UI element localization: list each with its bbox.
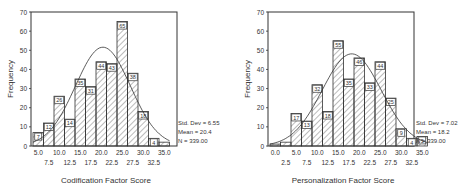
y-tick-label: 10	[257, 123, 265, 130]
x-tick-label: 27.5	[384, 159, 397, 166]
y-tick-label: 50	[20, 47, 28, 54]
x-axis-label: Codification Factor Score	[61, 176, 151, 185]
bar-count-label: 65	[119, 23, 125, 29]
x-tick-label: 25.0	[116, 149, 129, 156]
bar-count-label: 14	[67, 120, 73, 126]
histogram-bar: 33	[365, 83, 376, 146]
x-axis-label: Personalization Factor Score	[292, 176, 395, 185]
bar-count-label: 17	[293, 115, 299, 121]
y-axis-label: Frequency	[243, 60, 252, 98]
bar-count-label: 46	[356, 59, 362, 65]
y-tick-label: 60	[20, 28, 28, 35]
histogram-bar: 26	[54, 96, 65, 146]
y-tick-label: 20	[20, 104, 28, 111]
y-tick-label: 40	[20, 66, 28, 73]
bar-count-label: 9	[400, 130, 403, 136]
histogram-bar: 55	[333, 41, 344, 146]
personalization-histogram: 010203040506070Frequency1713321855354633…	[230, 0, 459, 194]
x-tick-label: 30.0	[395, 149, 408, 156]
histogram-bar: 9	[396, 129, 407, 146]
histogram-bar: 44	[375, 62, 386, 146]
y-tick-label: 70	[20, 9, 28, 16]
x-tick-label: 17.5	[84, 159, 97, 166]
x-tick-label: 32.5	[147, 159, 160, 166]
stats-text: Std. Dev = 6.55	[178, 120, 220, 126]
y-axis-label: Frequency	[6, 60, 15, 98]
histogram-bar: 18	[323, 112, 334, 146]
histogram-bar: 18	[138, 112, 149, 146]
y-tick-label: 30	[257, 85, 265, 92]
histogram-bar	[270, 144, 281, 146]
y-tick-label: 0	[260, 143, 264, 150]
stats-text: Mean = 20.4	[178, 129, 212, 135]
x-tick-label: 35.0	[158, 149, 171, 156]
y-tick-label: 60	[257, 28, 265, 35]
x-tick-label: 15.0	[74, 149, 87, 156]
histogram-bar: 35	[75, 79, 86, 146]
bar-count-label: 26	[56, 97, 62, 103]
y-tick-label: 40	[257, 66, 265, 73]
histogram-bar: 46	[354, 58, 365, 146]
x-tick-label: 7.5	[302, 159, 311, 166]
bar-count-label: 18	[325, 113, 331, 119]
bar-count-label: 43	[109, 65, 115, 71]
bar-count-label: 4	[152, 140, 155, 146]
y-tick-label: 10	[20, 123, 28, 130]
x-tick-label: 22.5	[363, 159, 376, 166]
histogram-bar: 13	[302, 121, 313, 146]
x-tick-label: 17.5	[342, 159, 355, 166]
x-tick-label: 2.5	[281, 159, 290, 166]
histogram-bar: 32	[312, 85, 323, 146]
x-tick-label: 5.0	[34, 149, 43, 156]
codification-histogram: 010203040506070Frequency7122614353144436…	[0, 0, 230, 194]
histogram-bar: 35	[344, 79, 355, 146]
x-tick-label: 27.5	[126, 159, 139, 166]
histogram-bar: 12	[44, 123, 55, 146]
bar-count-label: 31	[88, 88, 94, 94]
x-tick-label: 5.0	[292, 149, 301, 156]
codification-histogram-svg: 010203040506070Frequency7122614353144436…	[0, 0, 230, 194]
x-tick-label: 12.5	[63, 159, 76, 166]
y-tick-label: 70	[257, 9, 265, 16]
stats-text: N = 339.00	[178, 138, 208, 144]
x-tick-label: 35.0	[416, 149, 429, 156]
x-tick-label: 25.0	[374, 149, 387, 156]
histogram-bar: 38	[128, 73, 139, 146]
histogram-bar	[159, 142, 170, 146]
x-tick-label: 32.5	[405, 159, 418, 166]
histogram-bar: 31	[86, 87, 97, 146]
x-tick-label: 20.0	[353, 149, 366, 156]
x-tick-label: 22.5	[105, 159, 118, 166]
bar-count-label: 13	[304, 122, 310, 128]
bar-count-label: 33	[367, 84, 373, 90]
histogram-bar	[281, 142, 292, 146]
histogram-bar: 14	[65, 119, 76, 146]
stats-text: Mean = 18.2	[416, 129, 450, 135]
x-tick-label: 15.0	[332, 149, 345, 156]
x-tick-label: 0.0	[271, 149, 280, 156]
histogram-bar: 4	[149, 138, 160, 146]
bar-count-label: 32	[314, 86, 320, 92]
stats-text: Std. Dev = 7.02	[416, 120, 458, 126]
histogram-bar: 65	[117, 22, 128, 146]
x-tick-label: 20.0	[95, 149, 108, 156]
x-tick-label: 12.5	[321, 159, 334, 166]
y-tick-label: 0	[23, 143, 27, 150]
x-tick-label: 30.0	[137, 149, 150, 156]
bar-count-label: 38	[130, 74, 136, 80]
bar-count-label: 4	[410, 140, 413, 146]
x-tick-label: 10.0	[53, 149, 66, 156]
histogram-bar: 25	[386, 98, 397, 146]
bar-count-label: 35	[346, 80, 352, 86]
histogram-bar: 44	[96, 62, 107, 146]
y-tick-label: 20	[257, 104, 265, 111]
bar-count-label: 44	[98, 63, 104, 69]
y-tick-label: 30	[20, 85, 28, 92]
stats-text: N = 339.00	[416, 138, 446, 144]
x-tick-label: 7.5	[44, 159, 53, 166]
personalization-histogram-svg: 010203040506070Frequency1713321855354633…	[230, 0, 459, 194]
x-tick-label: 10.0	[311, 149, 324, 156]
histogram-bar: 43	[107, 64, 118, 146]
bar-count-label: 55	[335, 42, 341, 48]
y-tick-label: 50	[257, 47, 265, 54]
